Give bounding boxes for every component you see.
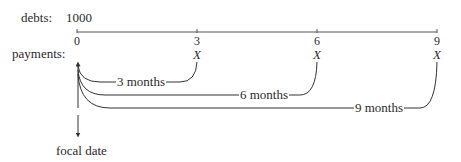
debt-amount: 1000 (66, 11, 92, 24)
interval-label-9-months: 9 months (354, 101, 404, 114)
payment-x-month-3: X (193, 48, 201, 61)
interval-label-6-months: 6 months (239, 88, 289, 101)
tick-label-9: 9 (434, 35, 440, 47)
payment-x-month-9: X (433, 48, 441, 61)
focal-date-label: focal date (56, 144, 107, 157)
debts-label: debts: (21, 11, 52, 24)
payment-x-month-6: X (313, 48, 321, 61)
tick-label-6: 6 (314, 35, 320, 47)
interval-label-3-months: 3 months (116, 75, 166, 88)
payments-label: payments: (12, 47, 65, 60)
tick-label-0: 0 (74, 35, 80, 47)
tick-label-3: 3 (194, 35, 200, 47)
